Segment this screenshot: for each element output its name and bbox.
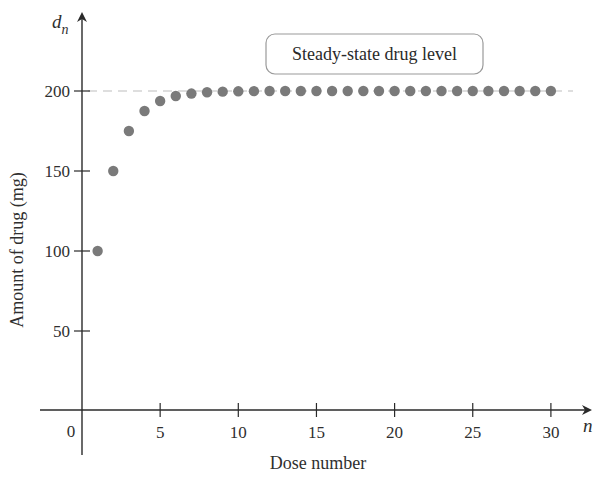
y-tick-label: 50	[53, 322, 70, 341]
y-tick-label: 100	[45, 242, 71, 261]
y-axis-title: Amount of drug (mg)	[7, 172, 28, 327]
data-point	[343, 86, 353, 96]
data-point	[452, 86, 462, 96]
x-tick-label: 15	[308, 423, 325, 442]
y-variable-label: dn	[52, 11, 69, 37]
axes	[40, 14, 590, 455]
data-point	[233, 86, 243, 96]
data-point	[530, 86, 540, 96]
data-point	[405, 86, 415, 96]
data-point	[92, 246, 102, 256]
x-tick-label: 30	[542, 423, 559, 442]
x-tick-label: 5	[156, 423, 165, 442]
data-point	[249, 86, 259, 96]
data-point	[514, 86, 524, 96]
y-tick-label: 200	[45, 82, 71, 101]
data-point	[217, 86, 227, 96]
data-point	[171, 91, 181, 101]
data-point	[546, 86, 556, 96]
data-point	[327, 86, 337, 96]
data-point	[296, 86, 306, 96]
data-point	[436, 86, 446, 96]
x-variable-label: n	[583, 415, 593, 436]
data-point	[483, 86, 493, 96]
data-point	[186, 88, 196, 98]
data-point	[139, 106, 149, 116]
data-point	[358, 86, 368, 96]
steady-state-annotation: Steady-state drug level	[266, 34, 483, 74]
x-tick-label: 10	[230, 423, 247, 442]
data-point	[499, 86, 509, 96]
data-point	[468, 86, 478, 96]
x-axis-title: Dose number	[270, 453, 366, 473]
data-point	[264, 86, 274, 96]
data-point	[389, 86, 399, 96]
data-points	[92, 86, 556, 256]
annotation-text: Steady-state drug level	[292, 44, 457, 64]
data-point	[202, 87, 212, 97]
data-point	[124, 126, 134, 136]
data-point	[108, 166, 118, 176]
data-point	[155, 96, 165, 106]
x-tick-label: 20	[386, 423, 403, 442]
data-point	[421, 86, 431, 96]
data-point	[280, 86, 290, 96]
data-point	[374, 86, 384, 96]
scatter-chart: 5101520253050100150200 Steady-state drug…	[0, 0, 613, 480]
x-tick-label: 25	[464, 423, 481, 442]
data-point	[311, 86, 321, 96]
axis-ticks: 5101520253050100150200	[45, 82, 560, 442]
origin-label: 0	[67, 422, 76, 441]
y-tick-label: 150	[45, 162, 71, 181]
